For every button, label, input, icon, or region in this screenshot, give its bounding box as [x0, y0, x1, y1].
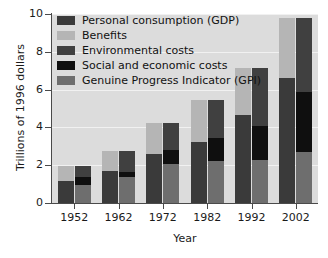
legend-swatch-icon — [57, 76, 75, 85]
x-axis-tick-label: 2002 — [282, 211, 310, 224]
legend-item: Environmental costs — [57, 43, 261, 57]
legend-swatch-icon — [57, 31, 75, 40]
y-axis-tick-label: 6 — [3, 83, 43, 96]
bar-segment — [102, 151, 118, 171]
legend-label: Environmental costs — [82, 45, 194, 56]
y-axis-tick — [45, 127, 51, 128]
legend-label: Genuine Progress Indicator (GPI) — [82, 75, 261, 86]
legend-label: Personal consumption (GDP) — [82, 15, 239, 26]
legend-item: Benefits — [57, 28, 261, 42]
bar-segment — [163, 164, 179, 203]
x-axis-tick — [252, 203, 253, 209]
y-axis-tick-label: 4 — [3, 120, 43, 133]
legend-item: Genuine Progress Indicator (GPI) — [57, 73, 261, 87]
y-axis-tick — [45, 203, 51, 204]
bar-segment — [58, 181, 74, 203]
bar-segment — [146, 123, 162, 155]
bar-segment — [146, 154, 162, 203]
y-axis-tick — [45, 52, 51, 53]
y-axis-tick-label: 8 — [3, 45, 43, 58]
legend-label: Social and economic costs — [82, 60, 227, 71]
y-axis-line — [51, 13, 52, 204]
gridline — [52, 90, 318, 91]
x-axis-tick-label: 1952 — [60, 211, 88, 224]
x-axis-tick — [119, 203, 120, 209]
bar-segment — [75, 185, 91, 203]
bar-segment — [58, 166, 74, 181]
x-axis-title: Year — [52, 232, 318, 245]
legend-swatch-icon — [57, 16, 75, 25]
bar-segment — [208, 138, 224, 161]
bar-segment — [119, 172, 135, 178]
bar-segment — [296, 152, 312, 203]
bar-segment — [279, 18, 295, 78]
bar-segment — [208, 100, 224, 138]
x-axis-tick-label: 1992 — [238, 211, 266, 224]
x-axis-tick — [163, 203, 164, 209]
bar-segment — [208, 161, 224, 203]
legend-item: Personal consumption (GDP) — [57, 13, 261, 27]
bar-segment — [119, 151, 135, 172]
y-axis-tick-label: 10 — [3, 7, 43, 20]
y-axis-tick-label: 0 — [3, 196, 43, 209]
bar-segment — [296, 18, 312, 92]
x-axis-tick — [207, 203, 208, 209]
bar-segment — [296, 92, 312, 152]
legend-swatch-icon — [57, 61, 75, 70]
bar-segment — [163, 123, 179, 151]
y-axis-tick-label: 2 — [3, 158, 43, 171]
x-axis-tick — [74, 203, 75, 209]
bar-segment — [119, 177, 135, 203]
bar-segment — [75, 177, 91, 186]
legend-item: Social and economic costs — [57, 58, 261, 72]
bar-2002-gpi — [296, 14, 312, 203]
y-axis-tick — [45, 90, 51, 91]
x-axis-tick-label: 1982 — [193, 211, 221, 224]
x-axis-tick-label: 1972 — [149, 211, 177, 224]
x-axis-line — [51, 203, 318, 204]
bar-segment — [163, 150, 179, 163]
legend-swatch-icon — [57, 46, 75, 55]
bar-segment — [252, 126, 268, 160]
gridline — [52, 165, 318, 166]
bar-segment — [252, 160, 268, 203]
bar-segment — [235, 115, 251, 203]
bar-segment — [191, 100, 207, 142]
y-axis-tick — [45, 165, 51, 166]
chart-container: Trillions of 1996 dollars 0246810 195219… — [0, 0, 328, 258]
x-axis-tick — [296, 203, 297, 209]
y-axis-tick-labels: 0246810 — [0, 0, 43, 258]
bar-segment — [102, 171, 118, 203]
chart-legend: Personal consumption (GDP)BenefitsEnviro… — [57, 13, 261, 87]
gridline — [52, 127, 318, 128]
bar-segment — [75, 166, 91, 177]
bar-segment — [191, 142, 207, 203]
bar-segment — [279, 78, 295, 203]
y-axis-tick — [45, 14, 51, 15]
legend-label: Benefits — [82, 30, 127, 41]
x-axis-tick-label: 1962 — [105, 211, 133, 224]
bar-2002-gdp — [279, 14, 295, 203]
